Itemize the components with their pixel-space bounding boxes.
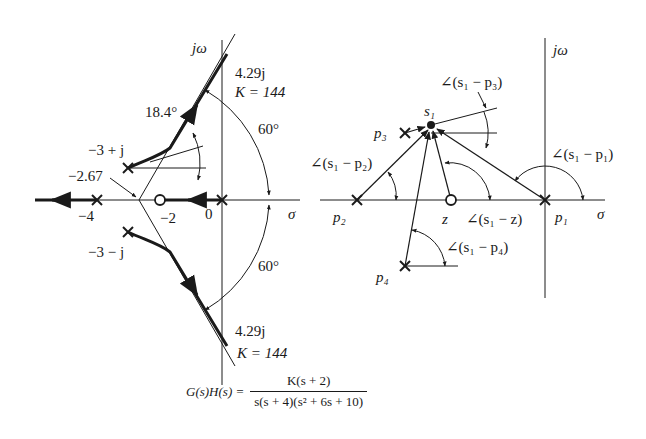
- transfer-function-lhs: G(s)H(s) =: [186, 384, 244, 400]
- tick-label-minus2: −2: [160, 210, 176, 226]
- transfer-function: G(s)H(s) = K(s + 2) s(s + 4)(s² + 6s + 1…: [186, 373, 367, 410]
- lower-pole-label: −3 − j: [88, 244, 124, 260]
- asymptote-angle-label-lower: 60°: [258, 258, 279, 274]
- label-z: z: [441, 211, 448, 227]
- left-imag-axis-label: jω: [190, 40, 207, 56]
- tick-label-zero: 0: [205, 206, 213, 222]
- angle-p3-pointer: [478, 92, 486, 108]
- departure-angle-label: 18.4°: [145, 104, 177, 120]
- upper-pole-label: −3 + j: [88, 142, 124, 158]
- label-p4: p₄: [375, 269, 389, 285]
- vector-p1-s1: [437, 129, 545, 200]
- transfer-function-denominator: s(s + 4)(s² + 6s + 10): [250, 391, 367, 410]
- zero-z-icon: [446, 195, 456, 205]
- angle-label-p1: ∠(s₁ − p₁): [551, 146, 613, 163]
- asymptote-lower: [139, 200, 235, 366]
- locus-branch-upper: [128, 54, 227, 168]
- zero-minus2-icon: [155, 195, 165, 205]
- asymptote-angle-arc-upper: [205, 90, 269, 195]
- label-p1: p₁: [554, 209, 568, 225]
- angle-arc-p4: [412, 230, 445, 266]
- label-p2: p₂: [332, 209, 346, 225]
- crossing-lower-gain: K = 144: [236, 345, 288, 361]
- vector-p4-s1: [405, 132, 429, 266]
- centroid-label: −2.67: [68, 168, 103, 184]
- crossing-lower-freq: 4.29j: [235, 323, 265, 339]
- departure-angle-arc: [193, 133, 200, 180]
- vector-z-s1: [433, 131, 451, 200]
- pole-p3-icon: [400, 128, 410, 138]
- crossing-upper-freq: 4.29j: [235, 65, 265, 81]
- locus-branch-lower: [128, 232, 227, 346]
- label-p3: p₃: [373, 125, 387, 141]
- angle-arc-p3: [484, 112, 488, 148]
- transfer-function-numerator: K(s + 2): [283, 373, 334, 391]
- left-real-axis-label: σ: [288, 206, 296, 222]
- angle-label-p2: ∠(s₁ − p₂): [310, 155, 372, 172]
- label-s1: s₁: [424, 103, 435, 119]
- right-imag-axis-label: jω: [551, 42, 568, 58]
- transfer-function-fraction: K(s + 2) s(s + 4)(s² + 6s + 10): [250, 373, 367, 410]
- crossing-upper-gain: K = 144: [234, 84, 286, 100]
- centroid-pointer: [110, 178, 136, 197]
- angle-label-z: ∠(s₁ − z): [466, 211, 522, 228]
- asymptote-angle-label-upper: 60°: [258, 121, 279, 137]
- tick-label-minus4: −4: [78, 208, 94, 224]
- right-real-axis-label: σ: [597, 206, 605, 222]
- angle-label-p3: ∠(s₁ − p₃): [440, 74, 502, 91]
- angle-arc-p2: [388, 172, 396, 200]
- test-point-s1-icon: [427, 121, 435, 129]
- angle-label-p4: ∠(s₁ − p₄): [446, 239, 508, 256]
